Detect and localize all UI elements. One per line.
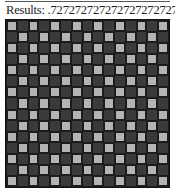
- board-cell-light[interactable]: [40, 77, 48, 85]
- board-cell-light[interactable]: [84, 99, 92, 107]
- board-cell-dark[interactable]: [18, 65, 28, 75]
- board-cell-light[interactable]: [19, 99, 27, 107]
- board-cell-light[interactable]: [84, 144, 92, 152]
- board-cell-light[interactable]: [62, 77, 70, 85]
- board-cell-light[interactable]: [159, 177, 167, 185]
- board-cell-light[interactable]: [40, 33, 48, 41]
- board-cell-light[interactable]: [51, 44, 59, 52]
- board-cell-dark[interactable]: [18, 21, 28, 31]
- board-cell-dark[interactable]: [72, 76, 82, 86]
- board-cell-light[interactable]: [73, 111, 81, 119]
- board-cell-light[interactable]: [116, 22, 124, 30]
- board-cell-dark[interactable]: [50, 98, 60, 108]
- board-cell-dark[interactable]: [137, 32, 147, 42]
- board-cell-light[interactable]: [148, 33, 156, 41]
- board-cell-dark[interactable]: [29, 76, 39, 86]
- board-cell-dark[interactable]: [50, 121, 60, 131]
- board-cell-light[interactable]: [138, 88, 146, 96]
- board-cell-dark[interactable]: [158, 54, 168, 64]
- board-cell-dark[interactable]: [39, 154, 49, 164]
- board-cell-dark[interactable]: [50, 54, 60, 64]
- board-cell-dark[interactable]: [18, 154, 28, 164]
- board-cell-dark[interactable]: [115, 76, 125, 86]
- board-cell-light[interactable]: [94, 88, 102, 96]
- board-cell-light[interactable]: [94, 155, 102, 163]
- board-cell-light[interactable]: [51, 177, 59, 185]
- board-cell-light[interactable]: [159, 155, 167, 163]
- board-cell-light[interactable]: [73, 44, 81, 52]
- board-cell-dark[interactable]: [104, 21, 114, 31]
- board-cell-dark[interactable]: [7, 165, 17, 175]
- board-cell-light[interactable]: [62, 144, 70, 152]
- board-cell-light[interactable]: [116, 133, 124, 141]
- board-cell-dark[interactable]: [18, 87, 28, 97]
- board-cell-dark[interactable]: [104, 65, 114, 75]
- board-cell-light[interactable]: [84, 55, 92, 63]
- board-cell-light[interactable]: [8, 22, 16, 30]
- board-cell-light[interactable]: [51, 111, 59, 119]
- board-cell-dark[interactable]: [115, 54, 125, 64]
- board-cell-dark[interactable]: [158, 32, 168, 42]
- board-cell-light[interactable]: [73, 133, 81, 141]
- board-cell-light[interactable]: [138, 111, 146, 119]
- board-cell-dark[interactable]: [29, 32, 39, 42]
- board-cell-dark[interactable]: [83, 21, 93, 31]
- board-cell-dark[interactable]: [158, 76, 168, 86]
- board-cell-light[interactable]: [148, 77, 156, 85]
- board-cell-light[interactable]: [105, 77, 113, 85]
- board-cell-dark[interactable]: [93, 165, 103, 175]
- board-cell-dark[interactable]: [137, 76, 147, 86]
- board-cell-light[interactable]: [94, 111, 102, 119]
- board-cell-dark[interactable]: [104, 132, 114, 142]
- board-cell-light[interactable]: [30, 88, 38, 96]
- board-cell-light[interactable]: [105, 144, 113, 152]
- board-cell-light[interactable]: [51, 66, 59, 74]
- board-cell-dark[interactable]: [126, 43, 136, 53]
- board-cell-light[interactable]: [105, 122, 113, 130]
- board-cell-dark[interactable]: [29, 165, 39, 175]
- board-cell-light[interactable]: [40, 166, 48, 174]
- board-cell-light[interactable]: [159, 22, 167, 30]
- board-cell-dark[interactable]: [158, 143, 168, 153]
- board-cell-light[interactable]: [30, 155, 38, 163]
- board-cell-dark[interactable]: [7, 54, 17, 64]
- board-cell-dark[interactable]: [93, 76, 103, 86]
- board-cell-dark[interactable]: [83, 154, 93, 164]
- board-cell-dark[interactable]: [158, 121, 168, 131]
- board-cell-dark[interactable]: [50, 76, 60, 86]
- board-cell-light[interactable]: [116, 155, 124, 163]
- board-cell-light[interactable]: [148, 55, 156, 63]
- board-cell-light[interactable]: [84, 166, 92, 174]
- board-cell-dark[interactable]: [115, 98, 125, 108]
- board-cell-dark[interactable]: [104, 110, 114, 120]
- board-cell-light[interactable]: [148, 122, 156, 130]
- board-cell-light[interactable]: [73, 88, 81, 96]
- board-cell-dark[interactable]: [147, 43, 157, 53]
- board-cell-dark[interactable]: [39, 132, 49, 142]
- board-cell-light[interactable]: [30, 177, 38, 185]
- board-cell-dark[interactable]: [18, 132, 28, 142]
- board-cell-dark[interactable]: [83, 43, 93, 53]
- board-cell-light[interactable]: [138, 133, 146, 141]
- board-cell-dark[interactable]: [126, 87, 136, 97]
- board-cell-light[interactable]: [62, 99, 70, 107]
- board-cell-dark[interactable]: [104, 176, 114, 186]
- board-cell-light[interactable]: [40, 144, 48, 152]
- board-cell-dark[interactable]: [126, 176, 136, 186]
- board-cell-light[interactable]: [51, 155, 59, 163]
- board-cell-dark[interactable]: [115, 32, 125, 42]
- board-cell-dark[interactable]: [83, 87, 93, 97]
- board-cell-light[interactable]: [84, 33, 92, 41]
- board-cell-dark[interactable]: [93, 32, 103, 42]
- board-cell-dark[interactable]: [39, 65, 49, 75]
- board-cell-dark[interactable]: [93, 121, 103, 131]
- board-cell-light[interactable]: [138, 44, 146, 52]
- board-cell-light[interactable]: [116, 44, 124, 52]
- board-cell-dark[interactable]: [104, 43, 114, 53]
- board-cell-dark[interactable]: [7, 121, 17, 131]
- board-cell-light[interactable]: [30, 44, 38, 52]
- board-cell-light[interactable]: [84, 77, 92, 85]
- board-cell-dark[interactable]: [147, 65, 157, 75]
- board-cell-dark[interactable]: [126, 154, 136, 164]
- board-cell-dark[interactable]: [50, 32, 60, 42]
